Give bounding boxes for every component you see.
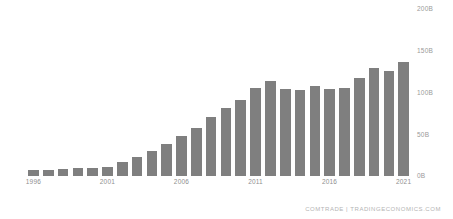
- bar[interactable]: [102, 167, 113, 176]
- bar[interactable]: [398, 62, 409, 176]
- y-tick-label: 50B: [417, 131, 429, 138]
- bar[interactable]: [354, 78, 365, 176]
- bar[interactable]: [43, 170, 54, 176]
- bar-slot: [130, 6, 145, 176]
- y-tick-label: 100B: [417, 89, 433, 96]
- bar-slot: [159, 6, 174, 176]
- bar-slot: [263, 6, 278, 176]
- y-tick-label: 150B: [417, 47, 433, 54]
- bar-slot: [219, 6, 234, 176]
- bar-slot: [307, 6, 322, 176]
- y-axis: 200B150B100B50B0B: [414, 0, 453, 219]
- bar-slot: [382, 6, 397, 176]
- bar-slot: [70, 6, 85, 176]
- x-tick-label: 2016: [322, 178, 337, 186]
- bar[interactable]: [176, 136, 187, 176]
- bar[interactable]: [280, 89, 291, 176]
- bar-slot: [26, 6, 41, 176]
- x-axis: 199620012006201120162021: [26, 178, 411, 190]
- source-credit: COMTRADE | TRADINGECONOMICS.COM: [305, 206, 441, 212]
- bar-slot: [174, 6, 189, 176]
- bar-slot: [100, 6, 115, 176]
- bar[interactable]: [369, 68, 380, 176]
- bar[interactable]: [28, 170, 39, 176]
- bar-slot: [85, 6, 100, 176]
- bar[interactable]: [324, 89, 335, 176]
- bar[interactable]: [161, 144, 172, 176]
- bar-slot: [189, 6, 204, 176]
- bar-slot: [367, 6, 382, 176]
- bar-slot: [41, 6, 56, 176]
- bar[interactable]: [132, 157, 143, 176]
- y-tick-label: 0B: [417, 172, 425, 179]
- bar[interactable]: [87, 168, 98, 177]
- bar[interactable]: [310, 86, 321, 176]
- bar-slot: [352, 6, 367, 176]
- bar-slot: [145, 6, 160, 176]
- bar[interactable]: [265, 81, 276, 176]
- bar-slot: [115, 6, 130, 176]
- bar[interactable]: [339, 88, 350, 176]
- bar[interactable]: [295, 90, 306, 176]
- bar-slot: [322, 6, 337, 176]
- bar[interactable]: [384, 71, 395, 176]
- bar-slot: [56, 6, 71, 176]
- bar-slot: [278, 6, 293, 176]
- bar-slot: [233, 6, 248, 176]
- bar[interactable]: [206, 117, 217, 177]
- x-tick-label: 2006: [174, 178, 189, 186]
- bar-slot: [293, 6, 308, 176]
- bar[interactable]: [250, 88, 261, 176]
- bars-container: [26, 6, 411, 176]
- x-tick-label: 2021: [396, 178, 411, 186]
- x-tick-label: 2011: [248, 178, 263, 186]
- bar-slot: [248, 6, 263, 176]
- y-tick-label: 200B: [417, 5, 433, 12]
- bar[interactable]: [147, 151, 158, 176]
- plot-area: [26, 6, 411, 176]
- bar-slot: [396, 6, 411, 176]
- x-tick-label: 1996: [26, 178, 41, 186]
- bar[interactable]: [73, 168, 84, 176]
- bar[interactable]: [191, 128, 202, 176]
- bar[interactable]: [117, 162, 128, 176]
- x-tick-label: 2001: [100, 178, 115, 186]
- bar[interactable]: [235, 100, 246, 176]
- bar-slot: [337, 6, 352, 176]
- bar[interactable]: [221, 108, 232, 176]
- bar-chart: 200B150B100B50B0B 1996200120062011201620…: [0, 0, 453, 219]
- bar[interactable]: [58, 169, 69, 176]
- bar-slot: [204, 6, 219, 176]
